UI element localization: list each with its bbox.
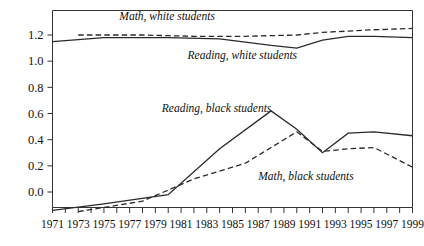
y-tick-label: 0.6 bbox=[28, 107, 44, 121]
x-tick-label: 1971 bbox=[41, 218, 64, 230]
x-axis-tick-labels: 1971197319751977197919811983198519871989… bbox=[41, 218, 424, 230]
x-tick-label: 1977 bbox=[118, 218, 141, 230]
x-tick-label: 1985 bbox=[221, 218, 244, 230]
x-tick-label: 1983 bbox=[195, 218, 218, 230]
x-tick-label: 1991 bbox=[298, 218, 321, 230]
y-tick-label: 0.0 bbox=[28, 185, 44, 199]
x-tick-label: 1993 bbox=[324, 218, 347, 230]
y-axis-ticks bbox=[48, 35, 53, 192]
x-tick-label: 1989 bbox=[272, 218, 295, 230]
y-axis-tick-labels: 0.00.20.40.60.81.01.2 bbox=[28, 28, 44, 199]
x-tick-label: 1975 bbox=[92, 218, 115, 230]
math-white-students-label: Math, white students bbox=[118, 10, 215, 23]
x-tick-label: 1973 bbox=[67, 218, 90, 230]
series-line-reading-black-students bbox=[53, 111, 413, 210]
x-axis-ticks bbox=[53, 208, 413, 214]
y-tick-label: 0.8 bbox=[28, 81, 44, 95]
x-tick-label: 1997 bbox=[375, 218, 398, 230]
series-line-reading-white-students bbox=[53, 36, 413, 48]
x-tick-label: 1987 bbox=[247, 218, 270, 230]
line-chart: 0.00.20.40.60.81.01.2 197119731975197719… bbox=[0, 0, 424, 246]
y-tick-label: 0.4 bbox=[28, 133, 44, 147]
x-tick-label: 1981 bbox=[170, 218, 193, 230]
x-tick-label: 1995 bbox=[350, 218, 373, 230]
chart-container: 0.00.20.40.60.81.01.2 197119731975197719… bbox=[0, 0, 424, 246]
y-tick-label: 1.2 bbox=[28, 28, 44, 42]
x-tick-label: 1979 bbox=[144, 218, 167, 230]
math-black-students-label: Math, black students bbox=[257, 170, 354, 183]
series-line-math-white-students bbox=[78, 28, 412, 36]
reading-white-students-label: Reading, white students bbox=[187, 49, 298, 62]
y-tick-label: 1.0 bbox=[28, 54, 44, 68]
x-tick-label: 1999 bbox=[401, 218, 424, 230]
reading-black-students-label: Reading, black students bbox=[161, 102, 272, 115]
y-tick-label: 0.2 bbox=[28, 159, 44, 173]
